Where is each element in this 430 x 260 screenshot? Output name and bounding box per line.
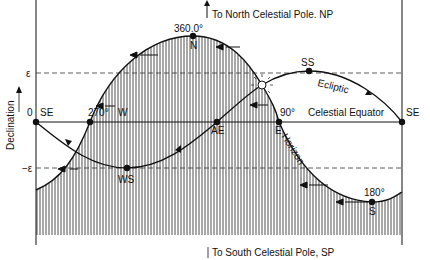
arrow-left-icon [58, 166, 65, 172]
arrow-left-icon [130, 52, 137, 58]
se-right-label: SE [406, 108, 419, 118]
north-angle-label: 360.0° [174, 24, 203, 34]
plus-epsilon-tick: ε [26, 69, 30, 79]
south-pole-label: To South Celestial Pole, SP [212, 248, 334, 258]
south-angle-label: 180° [364, 188, 385, 198]
ws-label: WS [118, 175, 134, 185]
minus-epsilon-tick: −ε [22, 164, 32, 174]
arrow-up-icon [16, 86, 22, 93]
south-label: S [369, 207, 376, 217]
se-left-label: SE [40, 108, 53, 118]
ss-label: SS [301, 58, 314, 68]
diagram: To North Celestial Pole. NP To South Cel… [0, 0, 430, 260]
se-left-point [33, 119, 39, 125]
west-label: W [118, 108, 127, 118]
east-angle-label: 90° [280, 108, 295, 118]
arrow-up-icon [204, 0, 210, 6]
ss-point [306, 68, 312, 74]
ws-point [124, 165, 130, 171]
north-pole-label: To North Celestial Pole. NP [212, 10, 333, 20]
west-angle-label: 270° [88, 108, 109, 118]
se-right-point [399, 119, 405, 125]
celestial-equator-label: Celestial Equator [308, 108, 384, 118]
west-point [87, 119, 93, 125]
zero-tick: 0 [27, 108, 33, 118]
declination-label: Declination [6, 101, 16, 150]
south-point [369, 199, 375, 205]
north-label: N [190, 41, 197, 51]
east-label: E [275, 126, 282, 136]
ae-label: AE [211, 126, 224, 136]
